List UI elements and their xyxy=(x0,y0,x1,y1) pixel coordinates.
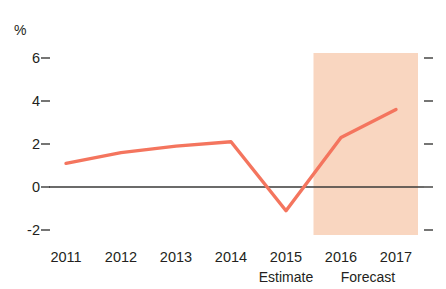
forecast-label: Forecast xyxy=(330,269,406,285)
forecast-shaded-region xyxy=(314,53,419,235)
y-tick-label-6: 6 xyxy=(10,50,40,66)
y-tick-label-2: 2 xyxy=(10,136,40,152)
x-tick-label-2017: 2017 xyxy=(368,249,424,265)
x-tick-label-2014: 2014 xyxy=(203,249,259,265)
x-tick-label-2011: 2011 xyxy=(38,249,94,265)
x-tick-label-2015: 2015 xyxy=(258,249,314,265)
y-axis-right-ticks xyxy=(424,58,433,230)
estimate-label: Estimate xyxy=(248,269,324,285)
x-tick-label-2016: 2016 xyxy=(313,249,369,265)
y-tick-label-4: 4 xyxy=(10,93,40,109)
y-tick-label-0: 0 xyxy=(10,179,40,195)
chart-plot-area xyxy=(0,0,446,289)
y-tick-label-minus-2: -2 xyxy=(4,222,40,238)
y-axis-left-ticks xyxy=(41,58,50,230)
line-chart: % 6 4 2 0 -2 2011 2012 2013 2014 2015 20… xyxy=(0,0,446,289)
x-tick-label-2013: 2013 xyxy=(148,249,204,265)
x-tick-label-2012: 2012 xyxy=(93,249,149,265)
